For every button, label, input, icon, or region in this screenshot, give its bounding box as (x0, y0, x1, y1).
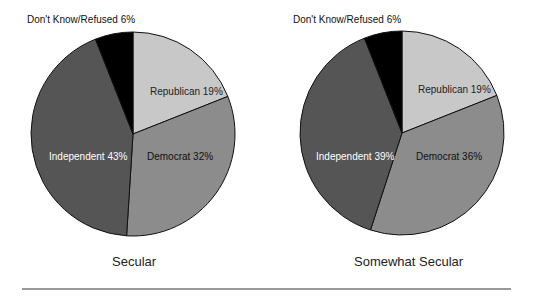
pie-chart-somewhat-secular (300, 31, 504, 235)
caption-secular: Secular (112, 254, 157, 269)
label-independent-secular: Independent 43% (49, 151, 128, 162)
label-republican-secular: Republican 19% (150, 86, 223, 97)
caption-somewhat-secular: Somewhat Secular (354, 254, 464, 269)
pie-chart-secular (31, 32, 235, 236)
label-dk-secular: Don't Know/Refused 6% (27, 14, 135, 25)
pie-charts-figure: Don't Know/Refused 6% Republican 19% Dem… (0, 0, 533, 299)
label-democrat-somewhat-secular: Democrat 36% (416, 151, 482, 162)
label-independent-somewhat-secular: Independent 39% (316, 151, 395, 162)
label-dk-somewhat-secular: Don't Know/Refused 6% (293, 14, 401, 25)
label-republican-somewhat-secular: Republican 19% (418, 84, 491, 95)
label-democrat-secular: Democrat 32% (147, 151, 213, 162)
